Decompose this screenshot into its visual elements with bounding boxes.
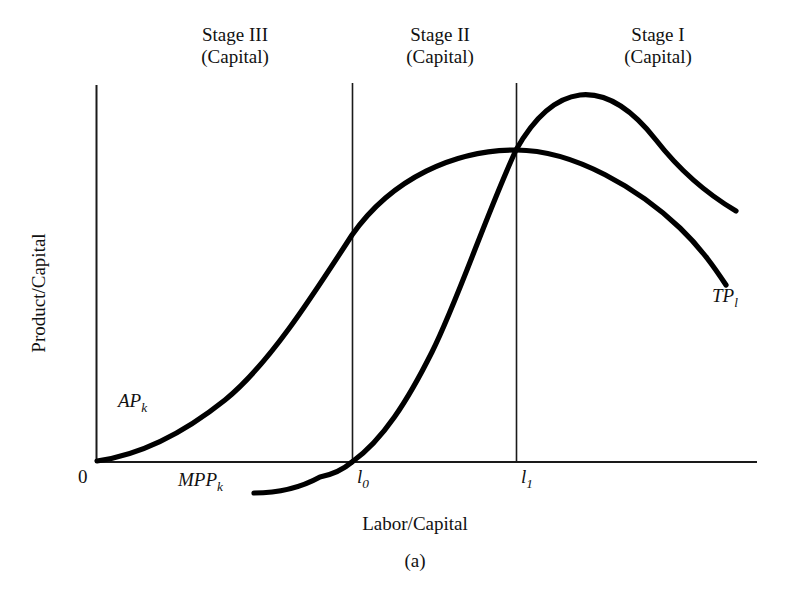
stage-2-name: Stage II [355, 24, 525, 46]
ap-sub: k [141, 400, 147, 415]
stage-label-2: Stage II (Capital) [355, 24, 525, 69]
curve-mpp-k [254, 462, 352, 493]
stage-3-name: Stage III [150, 24, 320, 46]
stage-label-3: Stage III (Capital) [150, 24, 320, 69]
stage-3-factor: (Capital) [150, 46, 320, 68]
l1-sub: 1 [526, 476, 533, 491]
x-axis-title: Labor/Capital [330, 513, 500, 535]
tp-sub: l [734, 295, 738, 310]
l0-sub: 0 [362, 476, 369, 491]
stage-1-factor: (Capital) [573, 46, 743, 68]
stage-1-name: Stage I [573, 24, 743, 46]
curve-label-mpp-k: MPPk [178, 469, 223, 495]
figure-caption: (a) [330, 550, 500, 572]
ap-base: AP [118, 390, 141, 411]
curve-label-ap-k: APk [118, 390, 147, 416]
stage-label-1: Stage I (Capital) [573, 24, 743, 69]
mpp-sub: k [217, 479, 223, 494]
tick-label-l1: l1 [521, 466, 533, 492]
y-axis-title: Product/Capital [28, 178, 50, 408]
mpp-base: MPP [178, 469, 217, 490]
curve-tp-l [352, 95, 736, 462]
stage-2-factor: (Capital) [355, 46, 525, 68]
curve-label-tp-l: TPl [712, 285, 738, 311]
tick-label-l0: l0 [357, 466, 369, 492]
tick-label-origin: 0 [78, 466, 88, 488]
tp-base: TP [712, 285, 734, 306]
curve-ap-k [97, 150, 726, 461]
